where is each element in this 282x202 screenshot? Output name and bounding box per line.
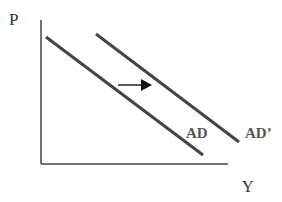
ad-prime-curve <box>96 34 239 142</box>
ad-shift-diagram: P AD AD’ Y <box>0 0 282 202</box>
shift-arrow-icon <box>118 79 152 91</box>
ad-prime-label: AD’ <box>245 125 272 141</box>
ad-label: AD <box>186 125 208 141</box>
x-axis-label: Y <box>242 178 254 195</box>
y-axis-label: P <box>9 10 18 29</box>
